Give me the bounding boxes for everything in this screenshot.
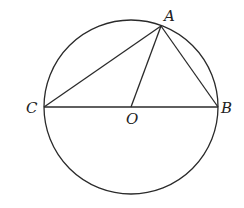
label-a: A xyxy=(162,7,175,25)
segment-ab xyxy=(161,26,218,107)
label-o: O xyxy=(126,110,138,128)
segment-ca xyxy=(44,26,161,107)
label-b: B xyxy=(220,99,232,117)
label-c: C xyxy=(26,99,38,117)
geometry-diagram: A C B O xyxy=(0,0,244,208)
segment-ao xyxy=(131,26,161,107)
